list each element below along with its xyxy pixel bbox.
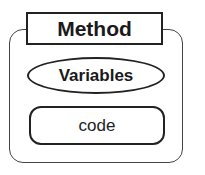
method-title: Method (57, 17, 132, 41)
code-box: code (29, 106, 165, 145)
code-label: code (79, 116, 116, 136)
variables-ellipse: Variables (27, 57, 165, 94)
variables-label: Variables (59, 66, 134, 86)
method-title-box: Method (26, 12, 163, 45)
